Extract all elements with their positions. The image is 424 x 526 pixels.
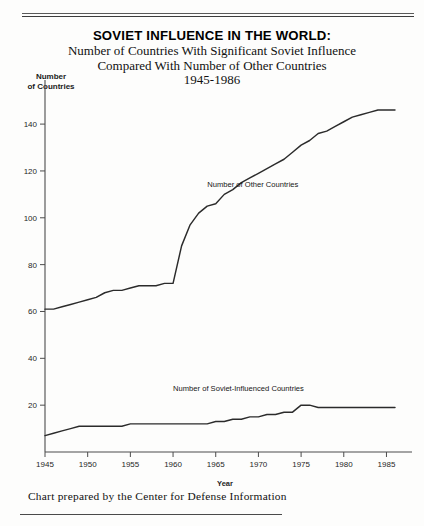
- series-line-2: [45, 405, 395, 435]
- svg-text:140: 140: [24, 120, 38, 129]
- svg-text:40: 40: [28, 354, 37, 363]
- series-line-1: [45, 110, 395, 309]
- svg-text:80: 80: [28, 261, 37, 270]
- svg-text:1955: 1955: [121, 460, 139, 469]
- svg-text:100: 100: [24, 214, 38, 223]
- svg-text:1975: 1975: [292, 460, 310, 469]
- series-label-1: Number of Other Countries: [207, 180, 298, 189]
- line-chart: 20406080100120140 1945195019551960196519…: [0, 0, 424, 526]
- x-axis-ticks: 194519501955196019651970197519801985: [36, 452, 396, 469]
- footer-credit: Chart prepared by the Center for Defense…: [28, 490, 287, 502]
- svg-text:60: 60: [28, 307, 37, 316]
- y-axis-ticks: 20406080100120140: [24, 120, 45, 410]
- series-label-2: Number of Soviet-Influenced Countries: [173, 384, 304, 393]
- bottom-divider-rule: [20, 514, 282, 515]
- svg-text:1985: 1985: [378, 460, 396, 469]
- svg-text:1960: 1960: [164, 460, 182, 469]
- svg-text:1950: 1950: [79, 460, 97, 469]
- svg-text:1980: 1980: [335, 460, 353, 469]
- svg-text:1970: 1970: [250, 460, 268, 469]
- svg-text:120: 120: [24, 167, 38, 176]
- chart-page: SOVIET INFLUENCE IN THE WORLD: Number of…: [0, 0, 424, 526]
- series-annotations: Number of Other CountriesNumber of Sovie…: [173, 180, 304, 393]
- x-axis-caption: Year: [217, 479, 233, 488]
- svg-text:1945: 1945: [36, 460, 54, 469]
- svg-text:1965: 1965: [207, 460, 225, 469]
- svg-text:20: 20: [28, 401, 37, 410]
